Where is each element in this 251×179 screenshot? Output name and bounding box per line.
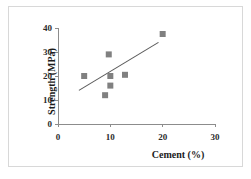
x-tick-label: 30: [211, 133, 220, 142]
data-point: [107, 73, 113, 79]
data-point: [160, 31, 166, 37]
data-point: [81, 73, 87, 79]
axes: [55, 28, 215, 127]
trendline: [79, 42, 159, 90]
x-axis-title: Cement (%): [118, 149, 238, 160]
data-markers: [81, 31, 166, 98]
data-point: [102, 92, 108, 98]
x-tick-label: 10: [106, 133, 115, 142]
chart-figure: 010203040 0102030 Strength (MPa) Cement …: [0, 0, 251, 179]
data-point: [122, 72, 128, 78]
y-axis-title: Strength (MPa): [46, 27, 57, 137]
data-point: [107, 83, 113, 89]
x-tick-label: 20: [158, 133, 167, 142]
data-point: [106, 51, 112, 57]
